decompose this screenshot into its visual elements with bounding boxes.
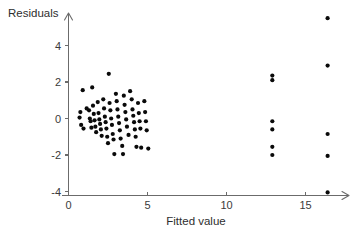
data-point [144,119,148,123]
data-point [105,135,109,139]
data-point [136,101,140,105]
data-point [120,144,124,148]
data-point [270,145,274,149]
data-point [130,97,134,101]
data-points-layer [77,16,329,194]
data-point [111,137,115,141]
data-point [118,128,122,132]
data-point [145,128,149,132]
data-point [92,112,96,116]
data-point [101,97,105,101]
y-tick-label-neg2: -2 [51,149,61,161]
data-point [123,110,127,114]
data-point [89,119,93,123]
data-point [138,126,142,130]
data-point [89,126,93,130]
data-point [326,63,330,67]
scatter-plot-figure: 4 2 0 -2 -4 0 5 10 15 Residuals Fitted v… [0,0,356,230]
data-point [270,153,274,157]
data-point [104,120,108,124]
data-point [109,116,113,120]
data-point [103,115,107,119]
data-point [107,101,111,105]
data-point [112,152,116,156]
data-point [110,123,114,127]
data-point [137,111,141,115]
data-point [270,119,274,123]
y-tick-label-2: 2 [55,76,61,88]
data-point [146,147,150,151]
data-point [96,100,100,104]
y-tick-label-0: 0 [55,113,61,125]
data-point [326,190,330,194]
data-point [126,133,130,137]
y-tick-label-4: 4 [55,40,61,52]
data-point [134,135,138,139]
data-point [121,152,125,156]
data-point [99,127,103,131]
data-point [122,94,126,98]
data-point [94,130,98,134]
data-point [96,111,100,115]
y-tick-label-neg4: -4 [51,186,61,198]
data-point [114,92,118,96]
y-axis-group [65,13,73,196]
data-point [77,115,81,119]
data-point [98,122,102,126]
data-point [119,136,123,140]
data-point [81,126,85,130]
data-point [131,114,135,118]
data-point [102,106,106,110]
data-point [78,110,82,114]
data-point [100,134,104,138]
y-axis-ticks: 4 2 0 -2 -4 [51,40,68,198]
y-axis-title: Residuals [8,7,59,19]
data-point [97,117,101,121]
data-point [130,107,134,111]
data-point [142,99,146,103]
x-tick-label-0: 0 [65,199,71,211]
data-point [139,146,143,150]
data-point [270,127,274,131]
x-axis-title: Fitted value [166,215,225,227]
data-point [138,119,142,123]
plot-canvas: 4 2 0 -2 -4 0 5 10 15 Residuals Fitted v… [0,0,356,230]
data-point [117,121,121,125]
data-point [115,99,119,103]
data-point [326,154,330,158]
x-axis-ticks: 0 5 10 15 [65,192,311,212]
data-point [79,123,83,127]
data-point [81,88,85,92]
data-point [128,89,132,93]
data-point [326,132,330,136]
x-tick-label-5: 5 [144,199,150,211]
data-point [90,85,94,89]
data-point [106,141,110,145]
x-tick-label-15: 15 [299,199,311,211]
data-point [92,118,96,122]
data-point [104,126,108,130]
data-point [143,110,147,114]
data-point [87,108,91,112]
data-point [115,107,119,111]
data-point [134,145,138,149]
data-point [107,72,111,76]
data-point [132,120,136,124]
data-point [111,132,115,136]
data-point [326,16,330,20]
data-point [91,104,95,108]
data-point [270,78,274,82]
data-point [133,127,137,131]
data-point [93,125,97,129]
data-point [125,125,129,129]
data-point [122,103,126,107]
data-point [116,115,120,119]
x-tick-label-10: 10 [220,199,232,211]
data-point [124,117,128,121]
data-point [270,74,274,78]
data-point [108,108,112,112]
